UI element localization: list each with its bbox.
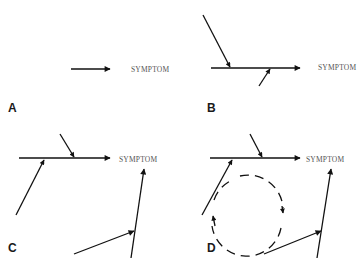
symptom-label: SYMPTOM bbox=[306, 155, 344, 164]
contributing-cause-arrow bbox=[60, 134, 74, 157]
feedback-arc-left bbox=[214, 180, 232, 200]
second-pathway-arrow bbox=[317, 169, 331, 258]
symptom-label: SYMPTOM bbox=[131, 65, 169, 74]
contributing-cause-arrow bbox=[202, 160, 232, 215]
contributing-cause-arrow bbox=[264, 231, 321, 254]
panel-c: SYMPTOM C bbox=[8, 134, 157, 258]
contributing-cause-arrow bbox=[259, 69, 270, 86]
symptom-label: SYMPTOM bbox=[119, 155, 157, 164]
contributing-cause-arrow bbox=[250, 134, 262, 157]
contributing-cause-arrow bbox=[203, 15, 230, 67]
feedback-arrowhead bbox=[213, 216, 215, 226]
symptom-label: SYMPTOM bbox=[318, 63, 356, 72]
panel-label: A bbox=[8, 101, 17, 115]
panel-label: B bbox=[207, 101, 216, 115]
feedback-loop bbox=[212, 175, 283, 256]
feedback-arrowhead bbox=[282, 206, 283, 213]
feedback-arc-top-right bbox=[240, 175, 283, 208]
panel-a: SYMPTOM A bbox=[8, 65, 169, 116]
panel-label: C bbox=[8, 241, 17, 255]
panel-label: D bbox=[207, 241, 216, 255]
contributing-cause-arrow bbox=[16, 160, 44, 215]
second-pathway-arrow bbox=[131, 169, 144, 258]
panel-b: SYMPTOM B bbox=[203, 15, 356, 115]
causal-diagram: SYMPTOM A SYMPTOM B SYMPTOM C SYMPTOM bbox=[0, 0, 363, 268]
panel-d: SYMPTOM D bbox=[202, 134, 344, 258]
contributing-cause-arrow bbox=[74, 231, 134, 254]
